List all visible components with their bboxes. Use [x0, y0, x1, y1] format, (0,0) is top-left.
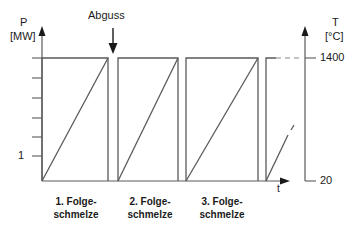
melt-block-3: [186, 58, 258, 181]
phase-label-3-line2: schmelze: [190, 209, 254, 222]
right-axis-arrowhead: [302, 26, 309, 36]
melt-block-3-power-ramp: [186, 58, 258, 181]
left-axis-tick-label-1: 1: [18, 149, 24, 161]
right-axis-tick-label-1400: 1400: [320, 51, 344, 63]
bottom-axis-arrowhead: [280, 178, 290, 185]
right-axis-name: T: [332, 16, 339, 28]
melt-block-2-power-ramp: [118, 58, 178, 181]
phase-label-1-line2: schmelze: [44, 209, 108, 222]
bottom-axis-name: t: [277, 183, 280, 194]
melt-block-4-truncated: [266, 58, 294, 181]
left-axis-arrowhead: [39, 26, 46, 36]
bottom-axis-group: [42, 178, 290, 185]
phase-label-2: 2. Folge- schmelze: [118, 196, 182, 221]
melt-block-1: [42, 58, 108, 181]
left-axis-group: [32, 26, 46, 181]
pour-callout-label: Abguss: [88, 9, 125, 21]
right-axis-tick-label-20: 20: [320, 174, 332, 186]
right-axis-group: [276, 26, 316, 181]
left-axis-unit: [MW]: [10, 30, 36, 42]
melt-block-1-power-ramp: [42, 58, 108, 181]
phase-label-3: 3. Folge- schmelze: [190, 196, 254, 221]
process-diagram: P [MW] 1 T [°C] 1400 20 t Abguss 1. Folg…: [0, 0, 358, 236]
right-axis-unit: [°C]: [325, 30, 343, 42]
phase-label-2-line1: 2. Folge-: [118, 196, 182, 209]
left-axis-name: P: [20, 16, 27, 28]
phase-label-3-line1: 3. Folge-: [190, 196, 254, 209]
phase-label-1-line1: 1. Folge-: [44, 196, 108, 209]
pour-arrow-head: [109, 43, 118, 54]
melt-block-4-power-ramp-truncated: [266, 135, 288, 181]
melt-block-2: [118, 58, 178, 181]
phase-label-2-line2: schmelze: [118, 209, 182, 222]
phase-label-1: 1. Folge- schmelze: [44, 196, 108, 221]
pour-arrow-group: [109, 28, 118, 54]
melt-block-4-ramp-continuation-dash: [291, 125, 294, 130]
